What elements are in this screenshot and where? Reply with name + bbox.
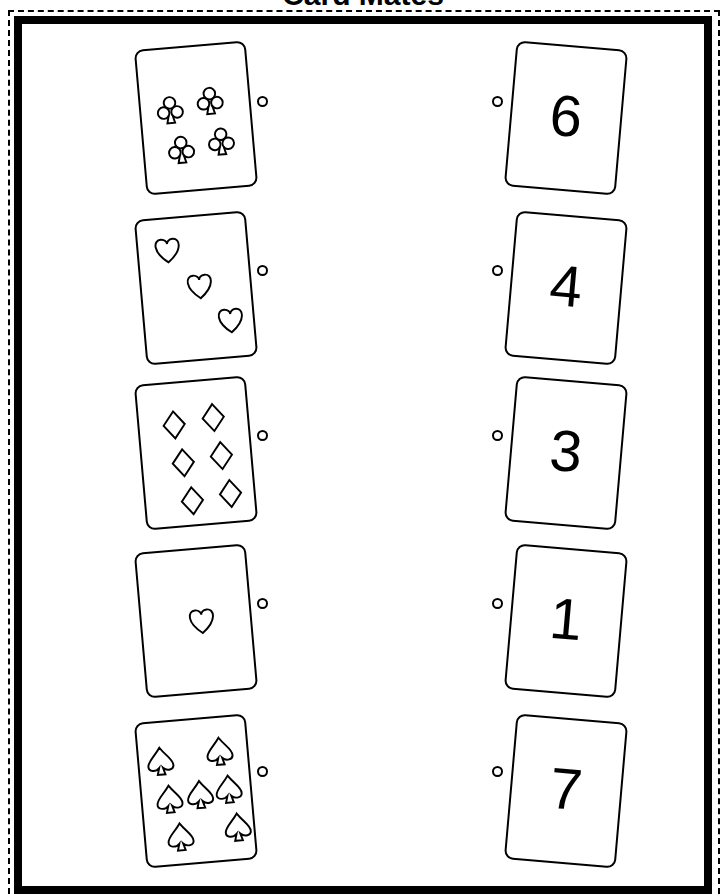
- match-dot-right-1[interactable]: [492, 96, 503, 107]
- heart-icon: [155, 233, 243, 338]
- match-dot-left-4[interactable]: [257, 598, 268, 609]
- worksheet-title: Card Mates: [0, 0, 726, 10]
- card-number: 1: [509, 579, 623, 658]
- match-dot-left-5[interactable]: [257, 766, 268, 777]
- match-dot-right-5[interactable]: [492, 766, 503, 777]
- number-card-5: 7: [504, 713, 628, 868]
- suit-card-hearts-3: [134, 210, 258, 365]
- suit-card-clubs-4: [134, 40, 258, 195]
- match-dot-left-1[interactable]: [257, 96, 268, 107]
- match-dot-right-2[interactable]: [492, 265, 503, 276]
- match-dot-right-4[interactable]: [492, 598, 503, 609]
- number-card-2: 4: [504, 210, 628, 365]
- match-dot-right-3[interactable]: [492, 430, 503, 441]
- card-number: 3: [509, 411, 623, 490]
- club-icon: [156, 86, 235, 164]
- number-card-1: 6: [504, 40, 628, 195]
- match-dot-left-3[interactable]: [257, 430, 268, 441]
- card-number: 6: [509, 76, 623, 155]
- suit-card-diamonds-6: [134, 375, 258, 530]
- number-card-3: 3: [504, 375, 628, 530]
- match-dot-left-2[interactable]: [257, 265, 268, 276]
- suit-card-hearts-1: [134, 543, 258, 698]
- card-number: 7: [509, 749, 623, 828]
- card-number: 4: [509, 246, 623, 325]
- diamond-icon: [162, 402, 242, 516]
- heart-icon: [189, 609, 214, 634]
- spade-icon: [146, 736, 252, 853]
- suit-card-spades-7: [134, 713, 258, 868]
- number-card-4: 1: [504, 543, 628, 698]
